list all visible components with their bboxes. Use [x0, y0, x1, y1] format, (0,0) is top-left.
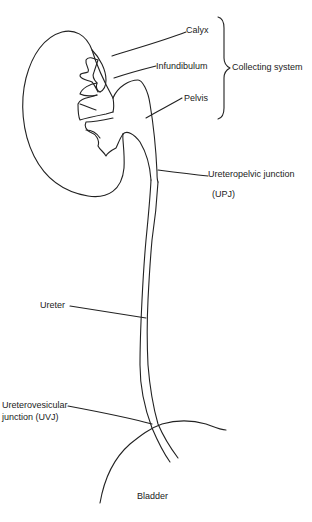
calyx-mid2 [78, 95, 113, 120]
infundibulum-leader [114, 66, 156, 78]
label-pelvis: Pelvis [184, 93, 208, 104]
label-upj-line1: Ureteropelvic junction [208, 169, 295, 180]
label-calyx: Calyx [186, 25, 209, 36]
upj-leader [158, 170, 208, 176]
pelvis-leader [146, 98, 182, 118]
label-collecting-system: Collecting system [232, 62, 303, 73]
kidney-outline [113, 80, 158, 182]
collecting-system-brace [218, 17, 230, 119]
ureter-left-wall [140, 180, 170, 462]
calyx-leader [112, 32, 186, 56]
calyx-upper [80, 58, 100, 92]
label-uvj-line2: junction (UVJ) [2, 412, 59, 423]
uvj-leader [68, 406, 152, 424]
calyx-lower [85, 118, 123, 156]
ureter-right-wall [147, 182, 178, 458]
label-ureter: Ureter [40, 300, 65, 311]
label-uvj-line1: Ureterovesicular [2, 400, 68, 411]
label-upj-line2: (UPJ) [212, 189, 235, 200]
ureter-leader [70, 306, 146, 318]
label-infundibulum: Infundibulum [156, 61, 208, 72]
kidney-ureter-bladder-drawing [0, 0, 312, 522]
label-bladder: Bladder [137, 491, 168, 502]
